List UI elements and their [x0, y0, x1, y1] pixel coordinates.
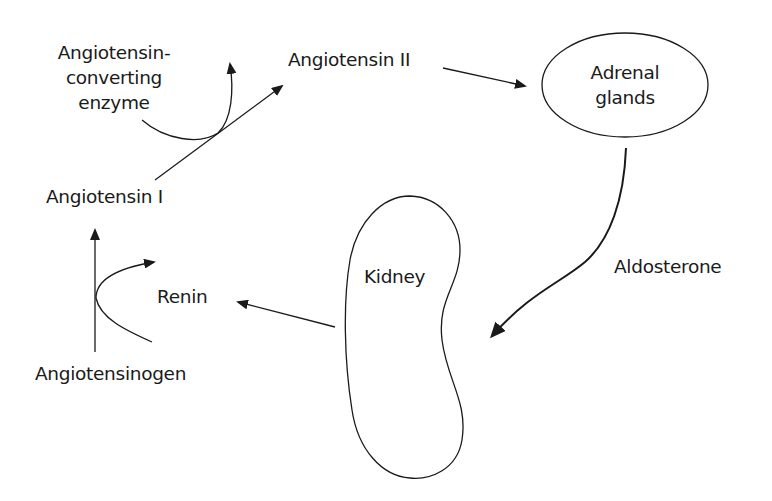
arrow-renin-catalysis — [96, 262, 154, 342]
label-adrenal-line2: glands — [565, 85, 685, 110]
kidney-shape — [345, 196, 463, 478]
label-adrenal-glands: Adrenal glands — [565, 60, 685, 110]
label-renin: Renin — [157, 284, 208, 309]
arrow-angiotensin-ii-to-adrenal — [443, 68, 525, 86]
label-angiotensin-i: Angiotensin I — [46, 184, 163, 209]
label-ace-line2: converting — [44, 65, 184, 90]
label-aldosterone: Aldosterone — [614, 254, 721, 279]
label-angiotensin-ii: Angiotensin II — [288, 47, 410, 72]
label-ace-line1: Angiotensin- — [44, 40, 184, 65]
arrow-kidney-to-renin — [238, 302, 335, 327]
label-ace: Angiotensin- converting enzyme — [44, 40, 184, 115]
label-adrenal-line1: Adrenal — [565, 60, 685, 85]
arrow-aldosterone — [492, 148, 626, 336]
label-kidney: Kidney — [364, 264, 425, 289]
label-ace-line3: enzyme — [44, 90, 184, 115]
label-angiotensinogen: Angiotensinogen — [35, 361, 186, 386]
